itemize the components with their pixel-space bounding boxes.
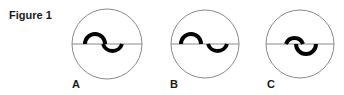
panel-c-label: C bbox=[267, 78, 275, 90]
panel-c-lower-arc bbox=[296, 44, 316, 54]
panel-a-upper-arc bbox=[85, 34, 105, 44]
panel-b bbox=[171, 10, 239, 78]
panel-b-lower-arc bbox=[208, 44, 227, 51]
panel-c bbox=[266, 10, 334, 78]
panel-b-label: B bbox=[170, 78, 178, 90]
panel-c-upper-arc bbox=[286, 38, 303, 44]
panel-a-lower-arc bbox=[103, 44, 122, 51]
panel-a bbox=[72, 9, 142, 79]
panel-a-label: A bbox=[72, 78, 80, 90]
panel-b-upper-arc bbox=[181, 34, 201, 44]
